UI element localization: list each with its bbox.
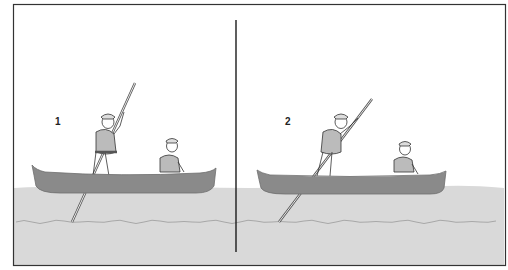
canoe-poling-illustration: 1 2 (0, 0, 508, 270)
kneeling-paddler-icon (160, 139, 184, 173)
step-label-2: 2 (285, 116, 291, 127)
standing-paddler-icon (317, 114, 358, 176)
kneeling-paddler-icon (394, 142, 418, 175)
step-label-1: 1 (55, 116, 61, 127)
water-area (14, 186, 504, 265)
canoe-icon (32, 165, 216, 193)
illustration-svg (0, 0, 508, 270)
